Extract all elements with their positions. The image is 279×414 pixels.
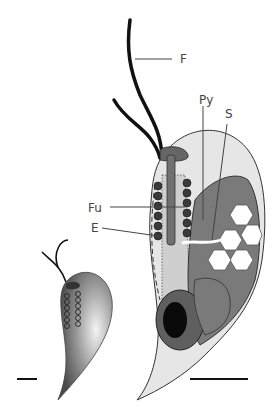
- large-cell: [137, 130, 265, 400]
- cell-diagram: [0, 0, 279, 414]
- label-furrow: Fu: [88, 202, 102, 214]
- label-starch: S: [225, 108, 233, 120]
- label-pyrenoid: Py: [199, 94, 213, 106]
- label-ejectisome: E: [91, 222, 99, 234]
- small-cell: [42, 240, 112, 400]
- large-cell-flagella: [114, 20, 162, 158]
- label-flagella: F: [180, 53, 187, 65]
